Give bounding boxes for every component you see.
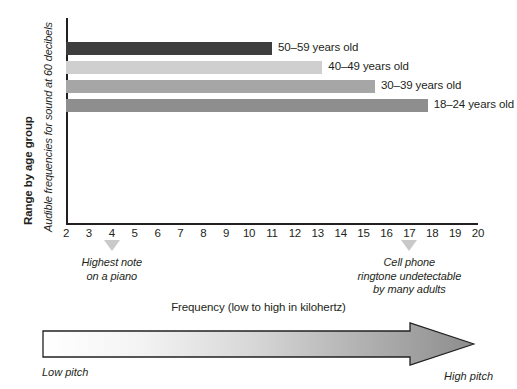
x-tick-14: 14 — [329, 227, 353, 239]
x-tick-10: 10 — [237, 227, 261, 239]
annotation-marker-2 — [401, 240, 417, 251]
low-pitch-label: Low pitch — [42, 366, 88, 378]
x-tick-2: 2 — [54, 227, 78, 239]
bar-4 — [66, 99, 428, 112]
x-tick-5: 5 — [123, 227, 147, 239]
x-axis-ticks: 234567891011121314151617181920 — [0, 227, 517, 243]
bar-label-1: 50–59 years old — [278, 41, 358, 54]
x-tick-19: 19 — [443, 227, 467, 239]
x-tick-12: 12 — [283, 227, 307, 239]
y-axis-title-bold: Range by age group — [22, 116, 34, 225]
bar-label-3: 30–39 years old — [381, 79, 461, 92]
x-tick-7: 7 — [168, 227, 192, 239]
chart-figure: Range by age group Audible frequencies f… — [0, 0, 517, 389]
frequency-axis-caption: Frequency (low to high in kilohertz) — [0, 301, 517, 313]
x-tick-11: 11 — [260, 227, 284, 239]
x-axis-line — [66, 223, 478, 225]
x-tick-20: 20 — [466, 227, 490, 239]
annotation-text-2: Cell phoneringtone undetectableby many a… — [299, 256, 517, 297]
x-tick-8: 8 — [191, 227, 215, 239]
plot-area: 50–59 years old40–49 years old30–39 year… — [66, 18, 478, 224]
bar-3 — [66, 80, 375, 93]
x-tick-15: 15 — [352, 227, 376, 239]
high-pitch-label: High pitch — [444, 370, 493, 382]
x-tick-9: 9 — [214, 227, 238, 239]
y-axis-title-italic: Audible frequencies for sound at 60 deci… — [42, 22, 54, 232]
annotation-marker-1 — [104, 240, 120, 251]
x-tick-4: 4 — [100, 227, 124, 239]
pitch-gradient-arrow — [42, 322, 475, 366]
bar-1 — [66, 42, 272, 55]
x-tick-6: 6 — [146, 227, 170, 239]
y-axis-label-group: Range by age group Audible frequencies f… — [0, 0, 62, 232]
bar-2 — [66, 61, 322, 74]
arrow-shape — [42, 322, 475, 366]
annotation-text-1: Highest noteon a piano — [2, 256, 222, 283]
bar-label-4: 18–24 years old — [434, 98, 514, 111]
x-tick-13: 13 — [306, 227, 330, 239]
x-tick-17: 17 — [397, 227, 421, 239]
x-tick-18: 18 — [420, 227, 444, 239]
bar-label-2: 40–49 years old — [328, 60, 408, 73]
x-tick-3: 3 — [77, 227, 101, 239]
x-tick-16: 16 — [374, 227, 398, 239]
